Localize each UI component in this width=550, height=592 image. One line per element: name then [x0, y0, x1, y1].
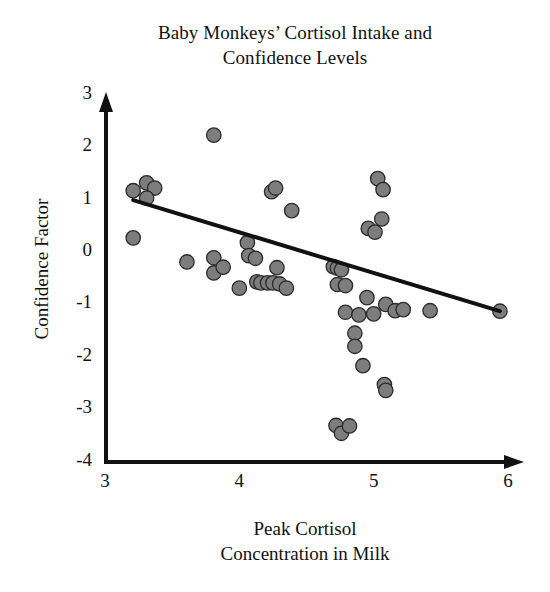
- x-axis-label-line-2: Concentration in Milk: [105, 541, 505, 566]
- x-axis-label-line-1: Peak Cortisol: [105, 516, 505, 541]
- data-point: [376, 182, 390, 196]
- data-point: [285, 203, 299, 217]
- data-point: [379, 383, 393, 397]
- data-point: [126, 231, 140, 245]
- data-point: [216, 260, 230, 274]
- data-point: [268, 181, 282, 195]
- x-axis-arrow-icon: [504, 455, 524, 469]
- data-point: [375, 212, 389, 226]
- data-point: [423, 303, 437, 317]
- data-point: [180, 255, 194, 269]
- data-point: [368, 225, 382, 239]
- y-axis-arrow-icon: [99, 92, 113, 112]
- data-point: [356, 359, 370, 373]
- data-point: [352, 308, 366, 322]
- data-point: [348, 339, 362, 353]
- data-point: [279, 281, 293, 295]
- data-point: [270, 261, 284, 275]
- data-point: [207, 128, 221, 142]
- data-point: [342, 419, 356, 433]
- data-point: [348, 326, 362, 340]
- data-point: [338, 305, 352, 319]
- data-point: [366, 307, 380, 321]
- data-point: [126, 183, 140, 197]
- data-point: [396, 302, 410, 316]
- data-point: [360, 290, 374, 304]
- plot-area: [0, 0, 550, 592]
- x-axis-label: Peak Cortisol Concentration in Milk: [105, 516, 505, 566]
- axes: [99, 92, 524, 469]
- data-points-layer: [126, 128, 507, 441]
- scatter-chart-figure: Baby Monkeys’ Cortisol Intake and Confid…: [0, 0, 550, 592]
- data-point: [232, 281, 246, 295]
- data-point: [338, 278, 352, 292]
- data-point: [248, 251, 262, 265]
